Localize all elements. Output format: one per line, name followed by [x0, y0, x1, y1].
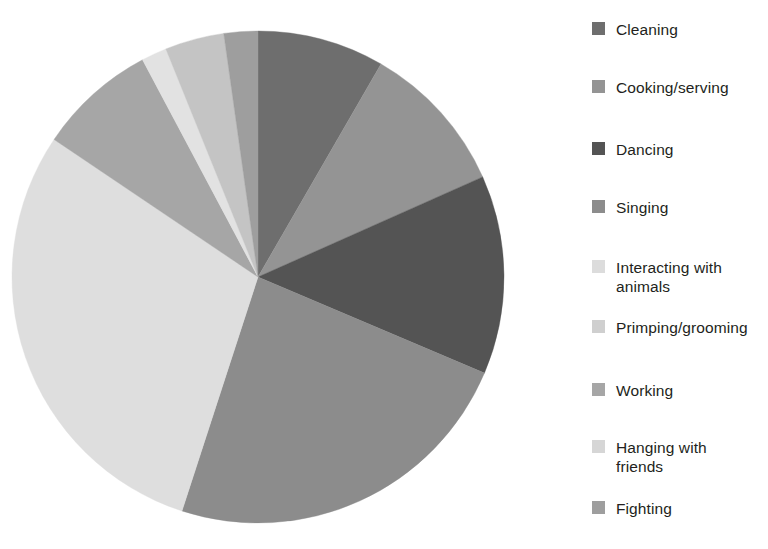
legend-item-fighting[interactable]: Fighting: [592, 499, 672, 518]
legend-label: Working: [616, 381, 673, 400]
legend-label: Hanging with friends: [616, 438, 707, 476]
chart-legend: CleaningCooking/servingDancingSingingInt…: [592, 0, 768, 549]
legend-item-cleaning[interactable]: Cleaning: [592, 20, 678, 39]
chart-page: CleaningCooking/servingDancingSingingInt…: [0, 0, 768, 549]
pie-chart: [0, 0, 540, 549]
legend-item-working[interactable]: Working: [592, 381, 673, 400]
legend-item-cooking-serving[interactable]: Cooking/serving: [592, 78, 729, 97]
legend-swatch-dancing-icon: [592, 142, 605, 155]
legend-swatch-working-icon: [592, 383, 605, 396]
legend-label: Singing: [616, 198, 668, 217]
legend-item-primping-grooming[interactable]: Primping/grooming: [592, 318, 748, 337]
legend-swatch-animals-icon: [592, 260, 605, 273]
legend-label: Dancing: [616, 140, 674, 159]
legend-item-interacting-with-animals[interactable]: Interacting with animals: [592, 258, 722, 296]
legend-swatch-hanging-icon: [592, 440, 605, 453]
legend-label: Fighting: [616, 499, 672, 518]
legend-label: Cooking/serving: [616, 78, 729, 97]
legend-item-hanging-with-friends[interactable]: Hanging with friends: [592, 438, 707, 476]
pie-chart-svg: [0, 0, 540, 549]
legend-swatch-singing-icon: [592, 200, 605, 213]
legend-swatch-primping-icon: [592, 320, 605, 333]
legend-label: Cleaning: [616, 20, 678, 39]
legend-item-singing[interactable]: Singing: [592, 198, 668, 217]
legend-label: Primping/grooming: [616, 318, 748, 337]
legend-item-dancing[interactable]: Dancing: [592, 140, 674, 159]
legend-swatch-fighting-icon: [592, 501, 605, 514]
legend-swatch-cooking-icon: [592, 80, 605, 93]
legend-swatch-cleaning-icon: [592, 22, 605, 35]
legend-label: Interacting with animals: [616, 258, 722, 296]
